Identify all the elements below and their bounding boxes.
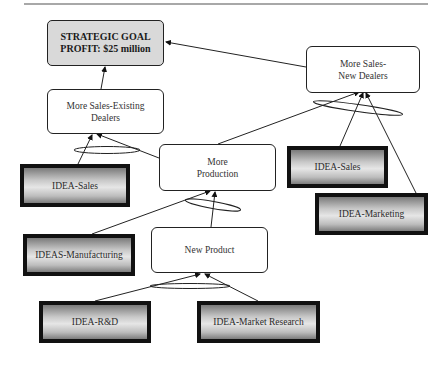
outcome-label: More Sales-Existing Dealers (67, 100, 145, 124)
outcome-label: More Sales- New Dealers (338, 58, 387, 82)
idea-marketing: IDEA-Marketing (315, 193, 428, 235)
idea-label: IDEA-Marketing (339, 208, 404, 220)
idea-label: IDEA-Sales (315, 161, 361, 173)
idea-market-research: IDEA-Market Research (197, 301, 320, 343)
idea-label: IDEA-R&D (72, 316, 118, 328)
outcome-label: New Product (185, 244, 235, 256)
outcome-new-product: New Product (151, 227, 268, 273)
goal-title: STRATEGIC GOAL (60, 31, 150, 43)
outcome-more-sales-new-dealers: More Sales- New Dealers (306, 46, 420, 93)
idea-sales-existing: IDEA-Sales (20, 164, 130, 207)
ideas-manufacturing: IDEAS-Manufacturing (23, 234, 135, 276)
outcome-label: More Production (197, 156, 239, 180)
strategic-goal-box: STRATEGIC GOAL PROFIT: $25 million (47, 20, 164, 66)
outcome-more-production: More Production (159, 144, 276, 191)
idea-label: IDEA-Sales (52, 180, 98, 192)
outcome-more-sales-existing-dealers: More Sales-Existing Dealers (47, 89, 164, 134)
goal-profit: PROFIT: $25 million (60, 43, 150, 55)
idea-r-and-d: IDEA-R&D (39, 301, 151, 343)
idea-label: IDEAS-Manufacturing (35, 249, 123, 261)
idea-label: IDEA-Market Research (213, 316, 303, 328)
idea-sales-new-dealers: IDEA-Sales (287, 146, 388, 188)
